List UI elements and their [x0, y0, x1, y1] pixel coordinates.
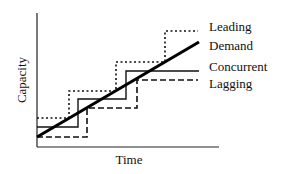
demand-line [37, 42, 199, 137]
label-concurrent: Concurrent [209, 59, 268, 74]
y-axis-label: Capacity [14, 56, 29, 103]
label-lagging: Lagging [209, 76, 253, 91]
label-leading: Leading [209, 19, 252, 34]
leading-line [37, 31, 198, 118]
label-demand: Demand [209, 38, 254, 53]
x-axis-label: Time [116, 152, 143, 167]
capacity-strategy-diagram: Leading Demand Concurrent Lagging Time C… [0, 0, 290, 174]
